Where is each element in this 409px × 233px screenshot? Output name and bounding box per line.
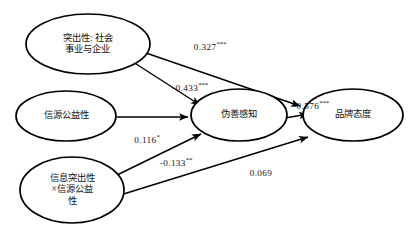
significance-stars: * xyxy=(157,133,160,141)
node-salience[interactable] xyxy=(26,14,150,74)
node-brand-attitude[interactable] xyxy=(303,89,403,141)
coefficient-value: 0.116 xyxy=(134,135,156,145)
coefficient-value: -0.576 xyxy=(293,101,319,111)
significance-stars: ** xyxy=(186,156,192,164)
edge-label-interaction-to-brand-attitude: 0.069 xyxy=(250,166,273,178)
significance-stars: *** xyxy=(217,40,227,48)
node-hypocrisy-perception[interactable] xyxy=(191,89,287,141)
node-source-publicness[interactable] xyxy=(16,91,116,141)
coefficient-value: -0.133 xyxy=(160,158,186,168)
edge-label-salience-to-hypocrisy: -0.433*** xyxy=(172,81,208,93)
significance-stars: *** xyxy=(198,81,208,89)
coefficient-value: 0.327 xyxy=(194,42,217,52)
path-diagram: 突出性: 社会 事业与企业 信源公益性 信息突出性 ×信源公益 性 伪善感知 品… xyxy=(0,0,409,233)
diagram-canvas xyxy=(0,0,409,233)
edge-label-salience-to-brand-attitude: 0.327*** xyxy=(194,40,226,52)
coefficient-value: 0.069 xyxy=(250,168,273,178)
edge-interaction-to-brand-attitude xyxy=(117,137,308,196)
edge-label-source-publicness-to-hypocrisy: 0.116* xyxy=(134,133,160,145)
node-interaction[interactable] xyxy=(20,157,124,223)
significance-stars: *** xyxy=(319,99,329,107)
edge-label-interaction-to-hypocrisy: -0.133** xyxy=(160,156,193,168)
edge-label-hypocrisy-to-brand-attitude: -0.576*** xyxy=(293,99,329,111)
coefficient-value: -0.433 xyxy=(172,83,198,93)
